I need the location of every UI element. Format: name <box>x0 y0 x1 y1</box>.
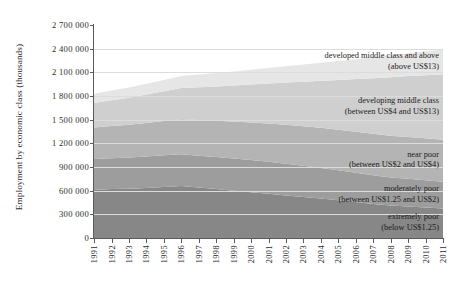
x-axis-tick-label: 2005 <box>334 245 343 263</box>
x-axis-tick <box>234 239 235 243</box>
gridline <box>94 143 443 144</box>
y-axis-tick-label: 2 100 000 <box>52 67 89 77</box>
gridline <box>94 72 443 73</box>
x-axis-tick-label: 1992 <box>108 245 117 263</box>
y-axis-tick <box>90 25 94 26</box>
series-annotation-developed-middle-class-and-above: developed middle class and above(above U… <box>325 51 439 73</box>
x-axis-tick <box>251 239 252 243</box>
y-axis-tick <box>90 120 94 121</box>
y-axis-tick-label: 600 000 <box>59 186 89 196</box>
x-axis-tick <box>94 239 95 243</box>
y-axis-tick-label: 1 200 000 <box>52 138 89 148</box>
x-axis-tick <box>303 239 304 243</box>
y-axis-tick-label: 1 800 000 <box>52 91 89 101</box>
x-axis-tick <box>199 239 200 243</box>
x-axis-tick-label: 2008 <box>387 245 396 263</box>
x-axis-tick <box>286 239 287 243</box>
x-axis-tick <box>164 239 165 243</box>
series-annotation-threshold: (between US$1.25 and US$2) <box>339 195 439 206</box>
y-axis-tick <box>90 143 94 144</box>
x-axis-tick-label: 2009 <box>404 245 413 263</box>
series-annotation-near-poor: near poor(between US$2 and US$4) <box>349 150 439 172</box>
x-axis-tick <box>426 239 427 243</box>
x-axis-tick-label: 2002 <box>282 245 291 263</box>
x-axis-tick-label: 1993 <box>125 245 134 263</box>
x-axis-tick-label: 1999 <box>230 245 239 263</box>
x-axis-tick-label: 1997 <box>195 245 204 263</box>
series-annotation-name: extremely poor <box>388 212 439 221</box>
x-axis-tick-label: 2003 <box>299 245 308 263</box>
plot-area: 2 700 0002 400 0002 100 0001 800 0001 50… <box>94 25 443 238</box>
series-annotation-developing-middle-class: developing middle class(between US$4 and… <box>345 96 439 118</box>
chart-figure: Employment by economic class (thousands)… <box>0 0 462 285</box>
y-axis-tick-label: 300 000 <box>59 209 89 219</box>
y-axis-tick-label: 0 <box>84 233 89 243</box>
x-axis-tick <box>146 239 147 243</box>
x-axis-tick-label: 2007 <box>369 245 378 263</box>
x-axis-tick-label: 2004 <box>317 245 326 263</box>
x-axis-tick <box>373 239 374 243</box>
x-axis-tick-label: 1991 <box>90 245 99 263</box>
series-annotation-name: developing middle class <box>358 96 439 105</box>
gridline <box>94 49 443 50</box>
y-axis-tick-label: 900 000 <box>59 162 89 172</box>
x-axis-tick <box>269 239 270 243</box>
y-axis-tick-label: 2 700 000 <box>52 20 89 30</box>
x-axis-tick <box>321 239 322 243</box>
x-axis-tick <box>129 239 130 243</box>
series-annotation-name: developed middle class and above <box>325 51 439 60</box>
series-annotation-threshold: (between US$4 and US$13) <box>345 107 439 118</box>
x-axis-tick-label: 1994 <box>142 245 151 263</box>
x-axis-tick <box>443 239 444 243</box>
x-axis-tick-label: 1995 <box>160 245 169 263</box>
series-annotation-threshold: (below US$1.25) <box>381 223 439 234</box>
x-axis-tick <box>391 239 392 243</box>
x-axis-tick-label: 2010 <box>422 245 431 263</box>
y-axis-tick-label: 2 400 000 <box>52 44 89 54</box>
x-axis-tick-label: 2011 <box>439 245 448 263</box>
y-axis-title: Employment by economic class (thousands) <box>14 12 24 242</box>
x-axis-tick <box>181 239 182 243</box>
x-axis-tick-label: 1998 <box>212 245 221 263</box>
series-annotation-threshold: (between US$2 and US$4) <box>349 160 439 171</box>
series-annotation-name: moderately poor <box>384 184 439 193</box>
y-axis-tick <box>90 167 94 168</box>
y-axis-tick <box>90 191 94 192</box>
series-annotation-name: near poor <box>407 150 439 159</box>
x-axis-tick <box>216 239 217 243</box>
series-annotation-threshold: (above US$13) <box>325 62 439 73</box>
gridline <box>94 120 443 121</box>
x-axis-tick <box>112 239 113 243</box>
x-axis-tick-label: 2006 <box>352 245 361 263</box>
x-axis-tick <box>338 239 339 243</box>
x-axis-tick <box>408 239 409 243</box>
x-axis-tick-label: 2000 <box>247 245 256 263</box>
x-axis-tick-label: 1996 <box>177 245 186 263</box>
y-axis-tick <box>90 49 94 50</box>
y-axis-tick-label: 1 500 000 <box>52 115 89 125</box>
series-annotation-moderately-poor: moderately poor(between US$1.25 and US$2… <box>339 184 439 206</box>
x-axis-tick <box>356 239 357 243</box>
y-axis-tick <box>90 72 94 73</box>
y-axis-tick <box>90 214 94 215</box>
x-axis-tick-label: 2001 <box>265 245 274 263</box>
series-annotation-extremely-poor: extremely poor(below US$1.25) <box>381 212 439 234</box>
y-axis-tick <box>90 96 94 97</box>
